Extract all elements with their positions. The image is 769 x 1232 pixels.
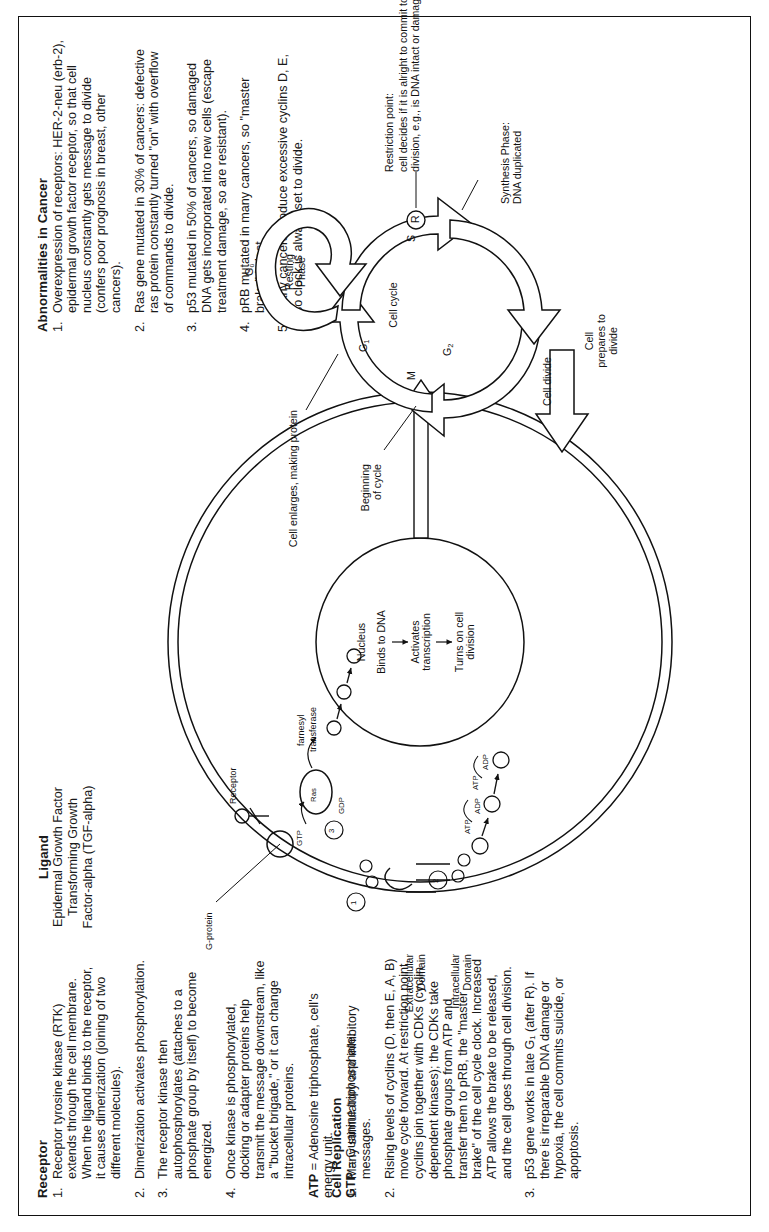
ligand-line-2: Transforming Growth [66, 782, 81, 932]
extracellular-domain-label: Extracellular Domain [404, 954, 427, 1074]
list-item: 1.Receptor tyrosine kinase (RTK) extends… [51, 958, 124, 1198]
rotated-sheet: Receptor 1.Receptor tyrosine kinase (RTK… [0, 0, 769, 1232]
r-label: R [410, 215, 422, 223]
list-text: Receptor tyrosine kinase (RTK) extends t… [51, 967, 123, 1179]
list-text: Overexpression of receptors: HER-2-neu (… [51, 40, 123, 313]
list-item: 1.Many stimulatory and inhibitory messag… [345, 958, 374, 1198]
list-text: Dimerization activates phosphorylation. [133, 960, 147, 1179]
receptor-section: Receptor 1.Receptor tyrosine kinase (RTK… [36, 958, 366, 1198]
gdp-label: GDP [338, 797, 347, 814]
list-item: 1.Overexpression of receptors: HER-2-neu… [51, 40, 124, 332]
farnesyl-label: farnesyl [296, 714, 306, 746]
beginning-of-cycle-line2: of cycle [372, 464, 384, 556]
list-text: Many stimulatory and inhibitory messages… [345, 1005, 374, 1179]
synthesis-phase-line2: DNA duplicated [512, 44, 524, 204]
cell-cycle-svg [210, 142, 610, 472]
g1-label: G1 [358, 340, 372, 353]
step-3-label: 3 [328, 829, 337, 833]
receptor-list: 1.Receptor tyrosine kinase (RTK) extends… [51, 958, 297, 1198]
ligand-line-3: Factor-alpha (TGF-alpha) [81, 782, 96, 932]
adp-label-2: ADP [482, 754, 491, 770]
abnormalities-heading: Abnormalities in Cancer [36, 40, 51, 332]
ligand-heading: Ligand [36, 782, 51, 932]
cycle-ring [322, 198, 560, 436]
binds-to-dna-label: Binds to DNA [376, 588, 388, 696]
g-protein-leader [216, 844, 280, 902]
adp-label: ADP [474, 798, 483, 814]
receptor-label: Receptor [228, 767, 238, 804]
nucleus-label: Nucleus [356, 600, 368, 684]
cell-replication-heading: Cell Replication [330, 958, 345, 1198]
transcription-label: transcription [421, 586, 433, 698]
list-number: 4. [224, 1187, 239, 1198]
phosphate-marks [360, 854, 470, 888]
list-number: 2. [383, 1187, 398, 1198]
cell-cycle-center-label: Cell cycle [388, 280, 400, 330]
resting-phase-line1: Resting [284, 240, 296, 304]
atp-label: ATP [464, 819, 473, 834]
receptor-heading: Receptor [36, 958, 51, 1198]
list-number: 3. [156, 1187, 171, 1198]
list-number: 2. [133, 321, 148, 332]
cell-prepares-line1: Cell [584, 296, 596, 386]
restriction-point-title: Restriction point: [384, 0, 396, 172]
ligand-line-1: Epidermal Growth Factor [51, 782, 66, 932]
list-item: 4.Once kinase is phosphorylated, docking… [224, 958, 297, 1198]
list-item: 2.Ras gene mutated in 30% of cancers: de… [133, 40, 177, 332]
list-item: 3.The receptor kinase then autophosphory… [156, 958, 214, 1198]
list-number: 1. [51, 321, 66, 332]
list-item: 3.p53 gene works in late G₁ (after R). I… [523, 958, 581, 1198]
g-protein-label: G-protein [204, 912, 214, 950]
step-2-label: 2 [432, 879, 441, 883]
g0-label: G₀ [244, 263, 256, 276]
ligand-section: Ligand Epidermal Growth Factor Transform… [36, 782, 96, 932]
list-number: 2. [133, 1187, 148, 1198]
division-label: division [465, 594, 477, 690]
m-phase-label: M [406, 371, 418, 380]
ras-label: Ras [310, 788, 319, 802]
extracellular-line1: Extracellular [403, 954, 415, 1012]
restriction-point-text: cell decides if it is alright to commit … [398, 0, 421, 172]
step-1-label: 1 [350, 901, 359, 905]
intracellular-line1: Intracellular [449, 954, 461, 1009]
atp-label-2: ATP [472, 775, 481, 790]
list-number: 1. [51, 1187, 66, 1198]
cell-cycle-wheel: Cell cycle G₀ Resting Phase G1 G2 S M R … [210, 142, 610, 472]
intracellular-line2: Domain [461, 954, 473, 991]
list-text: Ras gene mutated in 30% of cancers: defe… [133, 49, 176, 313]
intracellular-domain-label: Intracellular Domain [450, 954, 473, 1074]
cell-prepares-line2: prepares to [596, 296, 608, 386]
transferase-label: transferase [308, 707, 318, 752]
beginning-of-cycle-line1: Beginning [360, 464, 372, 556]
gtp-label: GTP [296, 830, 305, 846]
extracellular-line2: Domain [415, 954, 427, 991]
list-number: 1. [345, 1187, 360, 1198]
resting-phase-line2: Phase [296, 240, 308, 304]
g2-label: G2 [442, 344, 456, 357]
synthesis-phase-line1: Synthesis Phase: [500, 44, 512, 204]
list-number: 3. [185, 321, 200, 332]
page-root: Receptor 1.Receptor tyrosine kinase (RTK… [0, 0, 769, 1232]
list-item: 2.Dimerization activates phosphorylation… [133, 958, 148, 1198]
list-text: p53 gene works in late G₁ (after R). If … [523, 972, 581, 1179]
cell-prepares-line3: divide [608, 296, 620, 386]
list-text: Once kinase is phosphorylated, docking o… [224, 961, 296, 1179]
cell-enlarges-label: Cell enlarges, making protein [288, 410, 300, 590]
atp-term: ATP [307, 1174, 321, 1198]
list-number: 3. [523, 1187, 538, 1198]
step-number-circles [325, 821, 447, 911]
s-phase-label: S [406, 235, 418, 242]
list-text: The receptor kinase then autophosphoryla… [156, 972, 214, 1179]
cell-divide-label: Cell divide [542, 357, 554, 406]
